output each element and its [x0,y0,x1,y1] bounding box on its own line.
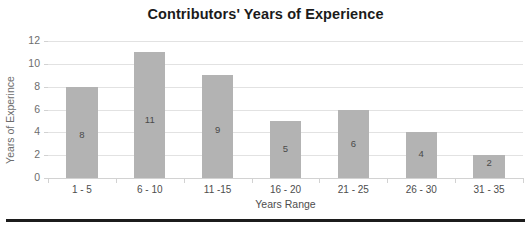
x-tick-mark [48,178,49,183]
y-tick-mark [44,155,48,156]
x-category-label: 21 - 25 [319,184,387,195]
bar-value-label: 5 [270,143,301,154]
y-tick-label: 6 [18,103,40,115]
bar[interactable]: 8 [66,87,97,178]
bar[interactable]: 2 [473,155,504,178]
y-tick-mark [44,132,48,133]
bar-value-label: 8 [66,129,97,140]
x-axis-title: Years Range [48,198,523,210]
bar[interactable]: 9 [202,75,233,178]
y-tick-label: 4 [18,125,40,137]
bar[interactable]: 4 [406,132,437,178]
x-tick-mark [319,178,320,183]
x-tick-mark [455,178,456,183]
x-tick-mark [523,178,524,183]
bar[interactable]: 5 [270,121,301,178]
y-tick-mark [44,110,48,111]
bar-slot: 8 [48,41,116,178]
bar-value-label: 4 [406,148,437,159]
x-tick-mark [116,178,117,183]
y-tick-label: 10 [18,57,40,69]
x-category-label: 11 -15 [184,184,252,195]
x-tick-mark [184,178,185,183]
bar-slot: 11 [116,41,184,178]
y-tick-label: 0 [18,171,40,183]
bar-value-label: 11 [134,114,165,125]
x-category-label: 6 - 10 [116,184,184,195]
x-category-label: 1 - 5 [48,184,116,195]
y-axis-tick-labels: 024681012 [18,41,42,178]
y-axis-title-text: Years of Experince [4,76,16,164]
x-tick-mark [387,178,388,183]
y-tick-label: 8 [18,80,40,92]
x-category-label: 16 - 20 [252,184,320,195]
x-category-label: 31 - 35 [455,184,523,195]
y-tick-mark [44,41,48,42]
bar-value-label: 6 [338,138,369,149]
y-tick-mark [44,64,48,65]
bars-layer: 81195642 [48,41,523,178]
x-axis-category-labels: 1 - 56 - 1011 -1516 - 2021 - 2526 - 3031… [48,178,523,198]
bar-value-label: 2 [473,157,504,168]
bar-slot: 9 [184,41,252,178]
y-tick-mark [44,87,48,88]
bar[interactable]: 6 [338,110,369,179]
y-tick-mark [44,178,48,179]
x-category-label: 26 - 30 [387,184,455,195]
bar-slot: 4 [387,41,455,178]
y-tick-label: 2 [18,148,40,160]
bar-value-label: 9 [202,124,233,135]
bar-slot: 6 [319,41,387,178]
x-tick-mark [252,178,253,183]
chart-title: Contributors' Years of Experience [0,6,531,22]
bar-slot: 2 [455,41,523,178]
y-axis-title: Years of Experince [2,55,18,185]
bar[interactable]: 11 [134,52,165,178]
bar-slot: 5 [252,41,320,178]
y-tick-label: 12 [18,34,40,46]
page-bottom-rule [6,219,525,222]
